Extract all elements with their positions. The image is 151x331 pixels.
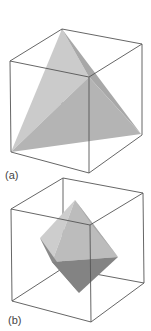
cube-a-edge [89,135,142,173]
figure-canvas: (a) (b) [0,0,151,331]
cube-b-edge [143,193,144,283]
cube-b-edge [12,301,91,322]
panel-b: (b) [8,178,144,326]
panel-label-b: (b) [8,314,21,326]
cube-b-edge [12,268,63,301]
cube-a-edge [10,61,11,152]
cube-b-edge [91,283,144,322]
octa-face-lower-front [52,257,118,293]
cube-b-edge [11,209,12,301]
panel-label-a: (a) [5,169,18,181]
octahedron [40,200,118,293]
panel-a: (a) [5,29,142,181]
tetrahedron [11,29,141,152]
cube-a-edge [11,152,89,173]
